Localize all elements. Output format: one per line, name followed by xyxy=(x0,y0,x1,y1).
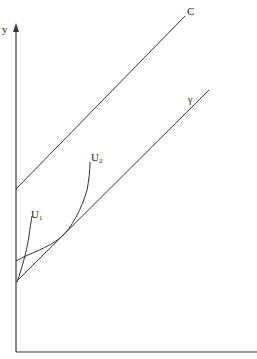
curve-u1-label: U1 xyxy=(31,209,42,222)
curve-u2-label: U2 xyxy=(91,152,102,165)
curve-u2-label-main: U xyxy=(91,151,99,163)
curve-u1-label-main: U xyxy=(31,208,39,220)
curve-u2-label-sub: 2 xyxy=(99,157,103,165)
y-axis-arrow-icon xyxy=(13,23,19,32)
line-gamma-label-visible: γ xyxy=(188,95,192,105)
curve-u1-label-sub: 1 xyxy=(39,214,43,222)
curve-u1 xyxy=(17,216,32,282)
y-axis-label: y xyxy=(2,24,8,35)
line-c-label: C xyxy=(187,6,194,17)
diagram-canvas xyxy=(0,0,257,359)
line-gamma xyxy=(16,90,209,282)
